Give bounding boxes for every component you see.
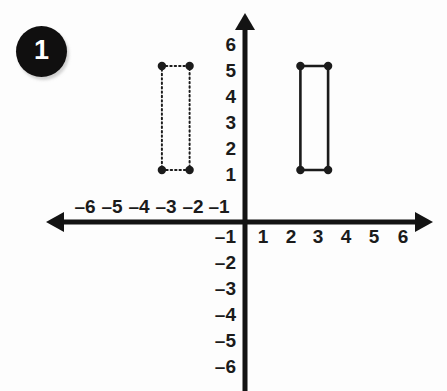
x-tick-label-1: 1 — [258, 226, 269, 247]
shape-outline — [162, 66, 190, 170]
vertex-point — [158, 166, 166, 174]
shape-preimage-rectangle — [296, 62, 332, 174]
x-tick-label-3: 3 — [313, 226, 324, 247]
x-axis-right-arrow-icon — [415, 212, 433, 232]
x-tick-label-neg3: –3 — [155, 196, 176, 217]
y-tick-label-6: 6 — [225, 34, 236, 55]
vertex-point — [185, 166, 193, 174]
x-tick-label-2: 2 — [286, 226, 297, 247]
y-tick-label-4: 4 — [225, 86, 236, 107]
x-axis-left-arrow-icon — [46, 212, 64, 232]
x-tick-label-neg2: –2 — [182, 196, 203, 217]
y-tick-label-3: 3 — [225, 112, 236, 133]
vertex-point — [296, 166, 304, 174]
vertex-point — [158, 62, 166, 70]
y-axis-top-arrow-icon — [235, 13, 255, 30]
vertex-point — [185, 62, 193, 70]
coordinate-grid-svg: 6 5 4 3 2 1 –1 –2 –3 –4 –5 –6 –6 –5 –4 –… — [0, 0, 447, 391]
y-tick-label-neg6: –6 — [215, 356, 236, 377]
x-axis-positive-tick-labels: 1 2 3 4 5 6 — [258, 226, 409, 247]
x-tick-label-5: 5 — [369, 226, 380, 247]
x-tick-label-neg6: –6 — [74, 196, 95, 217]
y-tick-label-neg3: –3 — [215, 278, 236, 299]
y-tick-label-neg2: –2 — [215, 252, 236, 273]
y-tick-label-5: 5 — [225, 60, 236, 81]
x-tick-label-6: 6 — [398, 226, 409, 247]
y-tick-label-neg5: –5 — [215, 330, 237, 351]
y-tick-label-neg1: –1 — [215, 226, 237, 247]
y-tick-label-neg4: –4 — [215, 304, 237, 325]
x-tick-label-neg1: –1 — [208, 196, 230, 217]
x-axis-negative-tick-labels: –6 –5 –4 –3 –2 –1 — [74, 196, 230, 217]
vertex-point — [324, 62, 332, 70]
shape-image-rectangle — [158, 62, 194, 174]
x-tick-label-neg4: –4 — [128, 196, 150, 217]
vertex-point — [296, 62, 304, 70]
x-tick-label-4: 4 — [341, 226, 352, 247]
y-tick-label-1: 1 — [225, 164, 236, 185]
vertex-point — [324, 166, 332, 174]
coordinate-plane-figure: 1 6 5 4 3 2 1 –1 –2 –3 –4 –5 — [0, 0, 447, 391]
x-tick-label-neg5: –5 — [101, 196, 123, 217]
y-tick-label-2: 2 — [225, 138, 236, 159]
shape-outline — [300, 66, 328, 170]
